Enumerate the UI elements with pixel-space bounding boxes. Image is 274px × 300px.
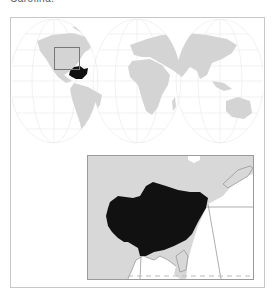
inset-map-svg	[88, 156, 253, 279]
world-map	[12, 19, 263, 144]
land	[37, 25, 262, 133]
inset-map	[87, 155, 254, 280]
locator-box	[54, 47, 80, 70]
caption-text: Carolina.	[10, 0, 55, 4]
